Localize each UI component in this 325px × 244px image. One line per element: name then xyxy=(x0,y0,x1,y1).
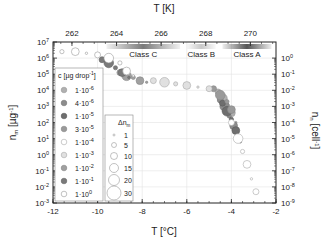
svg-text:266: 266 xyxy=(154,29,168,38)
x-axis-title: T [°C] xyxy=(151,226,177,237)
svg-text:10-4: 10-4 xyxy=(281,118,295,128)
data-point xyxy=(183,82,191,90)
legend-size-marker xyxy=(110,164,119,173)
svg-text:10-3: 10-3 xyxy=(281,101,295,111)
svg-text:106: 106 xyxy=(37,53,49,63)
svg-text:30: 30 xyxy=(124,190,132,197)
data-point xyxy=(232,127,240,135)
svg-text:-6: -6 xyxy=(183,207,191,216)
data-point xyxy=(160,77,170,87)
svg-text:10-9: 10-9 xyxy=(281,198,295,208)
legend-marker xyxy=(61,126,67,132)
svg-text:-2: -2 xyxy=(272,207,280,216)
legend-size-marker xyxy=(112,143,117,148)
svg-text:20: 20 xyxy=(124,177,132,184)
scatter-chart: Class CClass BClass A -12-10-8-6-4-22622… xyxy=(0,0,325,244)
svg-text:-10: -10 xyxy=(92,207,104,216)
class-bands: Class CClass BClass A xyxy=(107,44,272,59)
class-band xyxy=(107,44,181,49)
y-axis-left-title: nm [µg-1] xyxy=(7,104,19,140)
class-label: Class A xyxy=(233,50,261,59)
svg-text:10-1: 10-1 xyxy=(281,69,295,79)
svg-text:107: 107 xyxy=(37,37,49,47)
svg-text:104: 104 xyxy=(37,85,49,95)
data-point xyxy=(228,106,236,114)
legend-marker xyxy=(61,139,67,145)
svg-text:10-2: 10-2 xyxy=(35,182,49,192)
data-point xyxy=(174,82,178,86)
data-point xyxy=(206,86,212,92)
svg-text:10-7: 10-7 xyxy=(281,166,295,176)
data-point xyxy=(219,100,225,106)
data-point xyxy=(95,52,101,58)
data-point xyxy=(145,81,147,83)
svg-text:10-2: 10-2 xyxy=(281,85,295,95)
data-point xyxy=(250,178,252,180)
class-band xyxy=(222,44,271,49)
data-point xyxy=(123,67,131,75)
legend-size-marker xyxy=(111,153,118,160)
legend-marker xyxy=(61,178,67,184)
class-label: Class C xyxy=(129,50,157,59)
data-point xyxy=(128,76,130,78)
data-point xyxy=(60,50,64,54)
svg-text:-4: -4 xyxy=(228,207,236,216)
svg-text:101: 101 xyxy=(37,134,49,144)
svg-text:10-8: 10-8 xyxy=(281,182,295,192)
legend-marker xyxy=(61,100,67,106)
svg-text:1: 1 xyxy=(124,132,128,139)
data-point xyxy=(71,48,79,56)
svg-text:268: 268 xyxy=(199,29,213,38)
svg-text:100: 100 xyxy=(281,53,293,63)
legend-marker xyxy=(61,87,67,93)
svg-text:262: 262 xyxy=(65,29,79,38)
svg-text:10-6: 10-6 xyxy=(281,150,295,160)
svg-text:5: 5 xyxy=(124,142,128,149)
legend-marker xyxy=(61,152,67,158)
data-point xyxy=(136,77,144,85)
data-point xyxy=(240,149,244,153)
legend-marker xyxy=(61,165,67,171)
svg-text:-8: -8 xyxy=(139,207,147,216)
svg-text:10-1: 10-1 xyxy=(35,166,49,176)
svg-text:102: 102 xyxy=(37,118,49,128)
svg-text:103: 103 xyxy=(37,101,49,111)
data-point xyxy=(132,75,134,77)
legend-size-marker xyxy=(113,134,115,136)
legend-concentration: c [µg drop-1]1·10-64·10-61·10-53·10-51·1… xyxy=(55,68,103,201)
legend-marker xyxy=(61,191,67,197)
svg-text:15: 15 xyxy=(124,165,132,172)
legend-marker xyxy=(61,113,67,119)
data-point xyxy=(104,53,114,63)
data-point xyxy=(228,120,234,126)
data-point xyxy=(113,66,117,70)
data-point xyxy=(253,189,259,195)
class-band xyxy=(187,44,216,49)
data-point xyxy=(225,99,229,103)
data-point xyxy=(85,52,87,54)
svg-text:-12: -12 xyxy=(47,207,59,216)
svg-text:264: 264 xyxy=(110,29,124,38)
svg-text:100: 100 xyxy=(37,150,49,160)
legend-size-marker xyxy=(109,175,120,186)
class-label: Class B xyxy=(188,50,216,59)
top-axis-title: T [K] xyxy=(154,3,175,14)
svg-text:105: 105 xyxy=(37,69,49,79)
svg-text:10: 10 xyxy=(124,153,132,160)
y-axis-right-title: nn [cell-1] xyxy=(309,112,321,150)
data-point xyxy=(215,90,225,100)
svg-text:10-5: 10-5 xyxy=(281,134,295,144)
legend-size: Δnm1510152030 xyxy=(105,115,133,201)
data-point xyxy=(243,160,251,168)
svg-text:270: 270 xyxy=(244,29,258,38)
legend-size-marker xyxy=(107,186,121,200)
data-point xyxy=(150,78,156,84)
data-point xyxy=(118,61,122,65)
data-point xyxy=(233,134,243,144)
data-point xyxy=(197,86,199,88)
